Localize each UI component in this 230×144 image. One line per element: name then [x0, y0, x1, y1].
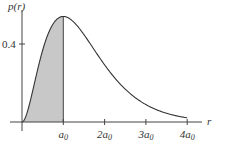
probability-density-chart: p(r) 0.4 r a02a03a04a0: [0, 0, 230, 144]
y-axis-label: p(r): [7, 0, 25, 13]
x-tick-label: 2a0: [97, 128, 112, 142]
x-tick-label: 3a0: [137, 128, 153, 142]
y-tick-label-0.4: 0.4: [2, 38, 16, 50]
x-tick-label: 4a0: [180, 128, 195, 142]
shaded-region: [22, 16, 63, 122]
shaded-area-0-to-a0: [22, 16, 63, 122]
x-tick-labels: a02a03a04a0: [59, 128, 195, 142]
x-tick-label: a0: [59, 128, 69, 142]
x-axis-label: r: [207, 115, 212, 127]
